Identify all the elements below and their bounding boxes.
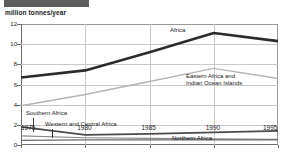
x-tick-label: 1995 — [263, 124, 277, 131]
title-banner — [4, 0, 89, 7]
leader-line-western-central-africa — [52, 129, 53, 138]
label-eastern-africa-line2: Indian Ocean Islands — [186, 80, 242, 88]
y-tick-label: 12 — [1, 21, 17, 27]
y-axis-caption: million tonnes/year — [5, 9, 66, 16]
y-tick-label: 10 — [1, 41, 17, 47]
y-tick-label: 6 — [1, 82, 17, 88]
series-line — [21, 140, 278, 141]
x-tick — [278, 145, 279, 148]
x-tick — [214, 145, 215, 148]
label-western-central-africa: Western and Central Africa — [45, 121, 117, 129]
label-northern-africa: Northern Africa — [172, 135, 212, 143]
x-tick — [150, 145, 151, 148]
y-tick-label: 0 — [1, 142, 17, 148]
chart-page: million tonnes/year 024681012 1975198019… — [0, 0, 283, 161]
x-tick — [85, 145, 86, 148]
y-tick-label: 2 — [1, 122, 17, 128]
y-tick-label: 8 — [1, 61, 17, 67]
x-tick-label: 1990 — [206, 124, 220, 131]
label-africa: Africa — [170, 27, 185, 35]
y-tick-label: 4 — [1, 102, 17, 108]
leader-line-southern-africa — [33, 118, 34, 132]
x-tick — [21, 145, 22, 148]
series-line — [21, 33, 278, 77]
series-line — [21, 136, 278, 140]
x-tick-label: 1985 — [142, 124, 156, 131]
label-southern-africa: Southern Africa — [26, 110, 67, 118]
